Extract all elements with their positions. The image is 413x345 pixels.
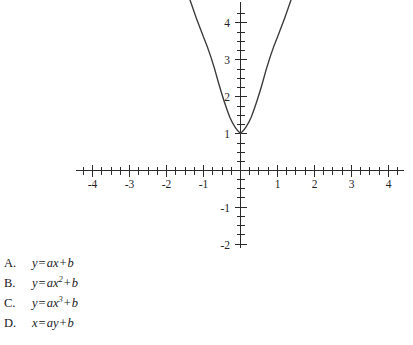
choice-c-plus: + <box>63 296 72 310</box>
choice-a-plus: + <box>58 256 67 270</box>
choice-equation-d: x=ay+b <box>32 316 74 331</box>
choice-b-lhs: y <box>32 276 38 290</box>
y-tick-label: 1 <box>224 128 230 140</box>
choice-letter-b: B. <box>4 276 32 291</box>
coordinate-plane-graph: -4 -3 -2 -1 1 2 3 4 4 3 2 1 -1 -2 <box>0 0 413 255</box>
choice-c-constant: b <box>72 296 78 310</box>
answer-choices-list: A. y=ax+b B. y=ax2+b C. y=ax3+b D. x=ay+… <box>0 256 413 336</box>
x-tick-label: -1 <box>199 178 209 190</box>
answer-choice-d[interactable]: D. x=ay+b <box>0 316 413 336</box>
choice-equation-a: y=ax+b <box>32 256 74 271</box>
x-tick-label: -3 <box>125 178 135 190</box>
y-axis-tick-labels: 4 3 2 1 -1 -2 <box>220 17 230 251</box>
y-tick-label: 2 <box>224 91 230 103</box>
x-tick-label: 4 <box>386 178 392 190</box>
choice-c-equals: = <box>38 296 47 310</box>
choice-letter-d: D. <box>4 316 32 331</box>
choice-letter-c: C. <box>4 296 32 311</box>
choice-a-lhs: y <box>32 256 38 270</box>
choice-a-equals: = <box>38 256 47 270</box>
graph-panel: -4 -3 -2 -1 1 2 3 4 4 3 2 1 -1 -2 <box>0 0 413 255</box>
choice-b-constant: b <box>72 276 78 290</box>
choice-d-plus: + <box>58 316 67 330</box>
choice-a-constant: b <box>68 256 74 270</box>
y-tick-label: 4 <box>224 17 230 29</box>
choice-letter-a: A. <box>4 256 32 271</box>
choice-d-lhs: x <box>32 316 38 330</box>
x-tick-label: -4 <box>88 178 98 190</box>
choice-b-equals: = <box>38 276 47 290</box>
choice-c-lhs: y <box>32 296 38 310</box>
y-tick-label: -2 <box>220 239 230 251</box>
x-tick-label: 1 <box>275 178 281 190</box>
x-tick-label: 3 <box>349 178 355 190</box>
answer-choice-c[interactable]: C. y=ax3+b <box>0 296 413 316</box>
choice-d-equals: = <box>38 316 47 330</box>
y-tick-label: 3 <box>224 54 230 66</box>
choice-equation-b: y=ax2+b <box>32 276 78 291</box>
x-tick-label: 2 <box>312 178 318 190</box>
choice-b-plus: + <box>63 276 72 290</box>
y-tick-label: -1 <box>220 202 230 214</box>
x-tick-label: -2 <box>162 178 172 190</box>
choice-equation-c: y=ax3+b <box>32 296 78 311</box>
choice-d-constant: b <box>68 316 74 330</box>
